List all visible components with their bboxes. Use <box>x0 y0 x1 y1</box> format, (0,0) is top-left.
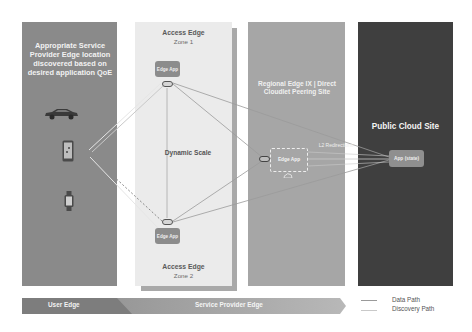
public-cloud-title: Public Cloud Site <box>358 122 453 132</box>
discovery-path-legend-line <box>361 310 377 311</box>
discovery-path-legend-label: Discovery Path <box>392 305 434 312</box>
service-provider-edge-band-label: Service Provider Edge <box>195 301 263 308</box>
edge-app-zone2: Edge App <box>155 228 180 244</box>
cloud-app-state: App (state) <box>389 150 424 167</box>
cloud-icon <box>283 173 293 178</box>
access-edge-zone1-label: Zone 1 <box>135 38 232 45</box>
smartwatch-icon <box>64 191 74 211</box>
router-icon <box>259 156 270 162</box>
edge-app-zone1: Edge App <box>155 61 180 77</box>
edge-app-regional: Edge App <box>270 148 308 172</box>
dynamic-scale-label: Dynamic Scale <box>160 149 216 157</box>
access-edge-zone1-title: Access Edge <box>135 29 232 37</box>
data-path-legend-line <box>361 300 377 301</box>
user-edge-title: Appropriate Service Provider Edge locati… <box>26 42 114 78</box>
smartphone-icon <box>62 140 74 162</box>
l2-redirections-label: L2 Redirections <box>316 142 356 148</box>
car-icon <box>43 106 79 120</box>
access-edge-zone2-label: Zone 2 <box>135 272 232 279</box>
user-edge-band-label: User Edge <box>48 301 80 308</box>
access-edge-zone2-title: Access Edge <box>135 263 232 271</box>
data-path-legend-label: Data Path <box>392 296 420 303</box>
router-icon <box>162 219 173 225</box>
router-icon <box>162 81 173 87</box>
regional-edge-title: Regional Edge IX | Direct Cloudlet Peeri… <box>252 80 342 96</box>
